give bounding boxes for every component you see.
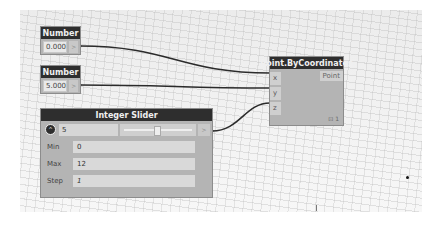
number-input[interactable]: 0.000 [43, 41, 67, 53]
property-label: Max [41, 160, 73, 168]
min-input[interactable]: 0 [73, 141, 195, 153]
max-input[interactable]: 12 [73, 158, 195, 170]
collapse-toggle-icon[interactable]: ^ [45, 124, 56, 135]
point-preview-marker [406, 176, 409, 179]
node-title: Number [41, 27, 80, 39]
input-port-z[interactable]: z [270, 102, 281, 115]
output-port-point[interactable]: Point [320, 71, 343, 81]
node-title: Integer Slider [41, 109, 212, 121]
integer-slider-node[interactable]: Integer Slider ^ 5 > Min 0 Max 12 Step 1 [41, 109, 212, 197]
number-node-1[interactable]: Number 0.000 > [41, 27, 80, 54]
slider-track[interactable] [120, 124, 196, 136]
number-node-2[interactable]: Number 5.000 > [41, 66, 80, 93]
property-step: Step 1 [41, 172, 212, 189]
node-title: Number [41, 66, 80, 78]
property-label: Step [41, 177, 73, 185]
number-input[interactable]: 5.000 [43, 80, 67, 92]
lacing-icon[interactable]: ⊡ 1 [328, 115, 339, 122]
output-port[interactable]: > [69, 80, 78, 92]
property-min: Min 0 [41, 138, 212, 155]
output-port[interactable]: > [69, 41, 78, 53]
input-port-x[interactable]: x [270, 72, 281, 85]
output-port[interactable]: > [198, 124, 210, 136]
property-label: Min [41, 143, 73, 151]
axis-tick [316, 205, 317, 211]
node-title: Point.ByCoordinates [270, 57, 343, 69]
input-port-y[interactable]: y [270, 87, 281, 100]
slider-value[interactable]: 5 [59, 124, 118, 136]
point-bycoordinates-node[interactable]: Point.ByCoordinates x y z Point ⊡ 1 [270, 57, 343, 125]
property-max: Max 12 [41, 155, 212, 172]
step-input[interactable]: 1 [73, 175, 195, 187]
slider-thumb[interactable] [154, 126, 161, 136]
